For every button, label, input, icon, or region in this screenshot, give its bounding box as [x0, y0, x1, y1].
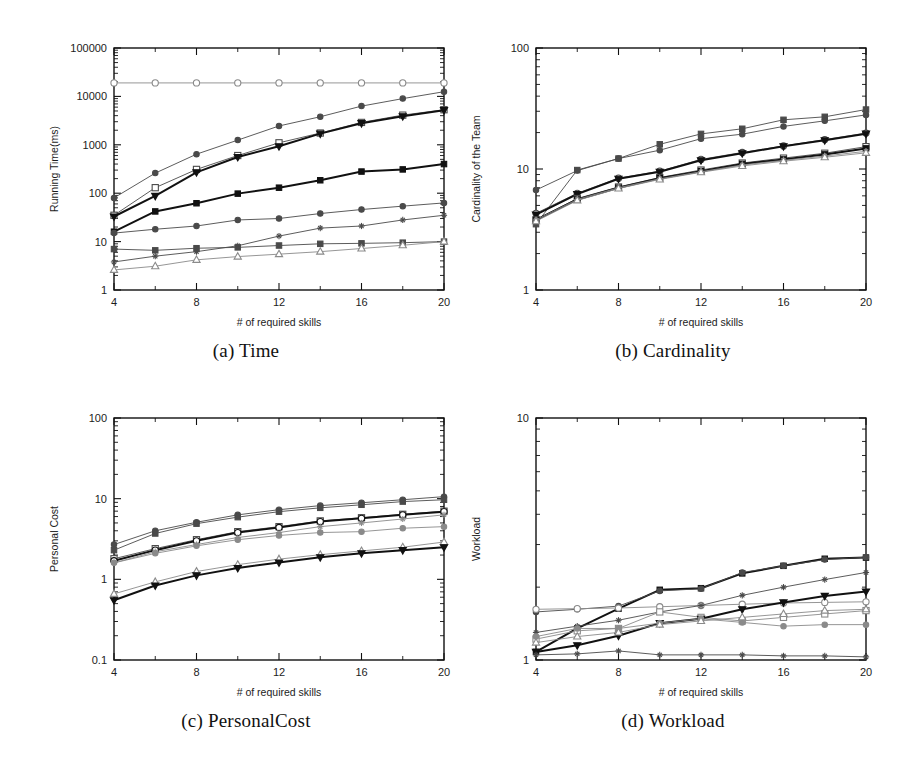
svg-text:Workload: Workload: [470, 517, 482, 561]
svg-text:100: 100: [511, 42, 529, 54]
panel-personalcost: 0.111010048121620# of required skillsPer…: [36, 398, 456, 748]
svg-text:12: 12: [695, 296, 707, 308]
plot-area-cardinality: 11010048121620# of required skillsCardin…: [458, 28, 888, 338]
svg-text:8: 8: [193, 296, 199, 308]
svg-text:Running Time(ms): Running Time(ms): [48, 126, 60, 212]
svg-text:20: 20: [860, 296, 872, 308]
svg-text:1: 1: [523, 654, 529, 666]
svg-text:4: 4: [111, 666, 117, 678]
svg-text:# of required skills: # of required skills: [237, 316, 322, 328]
svg-text:4: 4: [533, 666, 539, 678]
svg-text:10: 10: [95, 493, 107, 505]
panel-time: 11010010001000010000048121620# of requir…: [36, 28, 456, 378]
svg-text:10: 10: [517, 412, 529, 424]
svg-text:10: 10: [517, 163, 529, 175]
svg-text:16: 16: [355, 296, 367, 308]
plot-area-workload: 11048121620# of required skillsWorkload: [458, 398, 888, 708]
svg-text:20: 20: [438, 666, 450, 678]
panel-caption-cardinality: (b) Cardinality: [458, 340, 888, 362]
svg-text:4: 4: [111, 296, 117, 308]
svg-text:100000: 100000: [70, 42, 107, 54]
svg-text:100: 100: [89, 412, 107, 424]
svg-text:1000: 1000: [83, 139, 107, 151]
svg-text:20: 20: [438, 296, 450, 308]
svg-text:8: 8: [193, 666, 199, 678]
svg-text:1: 1: [101, 284, 107, 296]
svg-text:1: 1: [101, 573, 107, 585]
svg-text:0.1: 0.1: [92, 654, 107, 666]
svg-text:# of required skills: # of required skills: [659, 316, 744, 328]
panel-caption-personalcost: (c) PersonalCost: [36, 710, 456, 732]
panel-caption-time: (a) Time: [36, 340, 456, 362]
svg-text:16: 16: [777, 666, 789, 678]
svg-text:4: 4: [533, 296, 539, 308]
svg-text:10: 10: [95, 236, 107, 248]
svg-text:12: 12: [695, 666, 707, 678]
svg-text:20: 20: [860, 666, 872, 678]
svg-text:12: 12: [273, 296, 285, 308]
svg-text:# of required skills: # of required skills: [237, 686, 322, 698]
svg-text:10000: 10000: [76, 90, 107, 102]
svg-text:16: 16: [777, 296, 789, 308]
svg-text:12: 12: [273, 666, 285, 678]
plot-area-personalcost: 0.111010048121620# of required skillsPer…: [36, 398, 456, 708]
svg-text:1: 1: [523, 284, 529, 296]
svg-text:16: 16: [355, 666, 367, 678]
panel-cardinality: 11010048121620# of required skillsCardin…: [458, 28, 888, 378]
panel-workload: 11048121620# of required skillsWorkload …: [458, 398, 888, 748]
plot-area-time: 11010010001000010000048121620# of requir…: [36, 28, 456, 338]
panel-caption-workload: (d) Workload: [458, 710, 888, 732]
svg-text:8: 8: [615, 296, 621, 308]
svg-text:100: 100: [89, 187, 107, 199]
svg-text:8: 8: [615, 666, 621, 678]
figure-root: 11010010001000010000048121620# of requir…: [0, 0, 918, 777]
svg-text:Personal Cost: Personal Cost: [48, 506, 60, 572]
svg-text:# of required skills: # of required skills: [659, 686, 744, 698]
svg-text:Cardinality of the Team: Cardinality of the Team: [470, 115, 482, 222]
